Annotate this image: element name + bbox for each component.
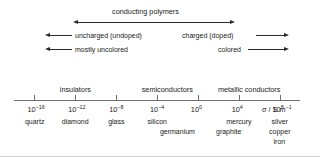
axis-tick-label: 10−4 [150, 105, 164, 114]
axis-tick-label: 10−12 [68, 105, 85, 114]
axis-caption-exponent: −1 [286, 104, 292, 110]
axis-tick-label: 100 [191, 105, 202, 114]
label-mostly-uncolored: mostly uncolored [75, 45, 128, 54]
tick-exponent: −16 [36, 104, 45, 110]
conducting-polymers-arrow-line [78, 22, 230, 23]
arrow-right-icon [284, 47, 289, 51]
uncolored-arrow-line [50, 49, 72, 50]
axis-tick [157, 95, 158, 100]
material-label-germanium: germanium [160, 128, 195, 135]
arrow-left-icon [73, 20, 78, 24]
tick-mantissa: 10 [27, 105, 35, 114]
axis-tick-label: 10−16 [27, 105, 44, 114]
tick-exponent: 4 [240, 104, 243, 110]
tick-mantissa: 10 [150, 105, 158, 114]
conducting-polymers-title: conducting polymers [112, 7, 179, 16]
axis-tick [239, 95, 240, 100]
axis-tick [280, 95, 281, 100]
label-colored: colored [218, 45, 241, 54]
material-label-silver: silver [272, 118, 288, 125]
material-label-silicon: silicon [148, 118, 167, 125]
tick-exponent: −4 [158, 104, 164, 110]
conductivity-axis-line [14, 100, 300, 101]
colored-arrow-line [248, 49, 284, 50]
tick-mantissa: 10 [191, 105, 199, 114]
material-label-graphite: graphite [216, 128, 241, 135]
tick-exponent: 0 [199, 104, 202, 110]
material-label-copper: copper [269, 128, 290, 135]
axis-caption: σ / S m−1 [262, 105, 292, 114]
axis-tick [34, 95, 35, 100]
material-label-iron: iron [274, 138, 286, 145]
tick-mantissa: 10 [232, 105, 240, 114]
tick-exponent: −12 [76, 104, 85, 110]
arrow-right-icon [284, 33, 289, 37]
axis-tick [75, 95, 76, 100]
arrow-right-icon [230, 20, 235, 24]
material-label-diamond: diamond [62, 118, 89, 125]
band-label-insulators: insulators [60, 85, 91, 94]
tick-exponent: −8 [117, 104, 123, 110]
material-label-quartz: quartz [25, 118, 44, 125]
band-label-metallic-conductors: metallic conductors [218, 85, 280, 94]
axis-tick [198, 95, 199, 100]
label-charged-doped: charged (doped) [182, 31, 233, 40]
label-uncharged-undoped: uncharged (undoped) [75, 31, 142, 40]
conductivity-scale-figure: conducting polymers uncharged (undoped) … [0, 0, 320, 157]
band-label-semiconductors: semiconductors [142, 85, 193, 94]
axis-tick [116, 95, 117, 100]
charged-arrow-line [256, 35, 284, 36]
axis-tick-label: 10−8 [109, 105, 123, 114]
uncharged-arrow-line [50, 35, 72, 36]
axis-caption-text: σ / S m [262, 105, 286, 114]
material-label-mercury: mercury [226, 118, 251, 125]
axis-tick-label: 104 [232, 105, 243, 114]
material-label-glass: glass [108, 118, 124, 125]
